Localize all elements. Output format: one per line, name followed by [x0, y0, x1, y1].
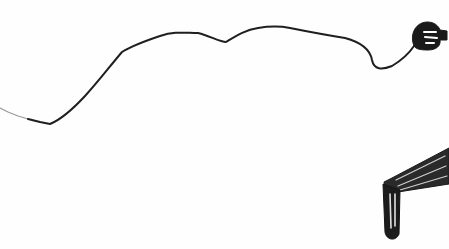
sketch-drawing — [0, 0, 449, 249]
sketch-canvas — [0, 0, 449, 249]
plug-end — [412, 22, 447, 50]
dripping-pipe — [383, 148, 449, 239]
cord-line — [28, 27, 414, 125]
cord-lead-in — [0, 108, 28, 119]
